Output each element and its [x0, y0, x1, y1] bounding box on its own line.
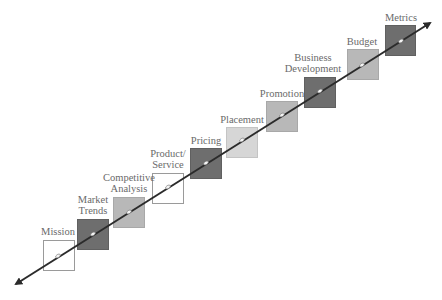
- step-label-promotion: Promotion: [260, 88, 304, 99]
- step-label-metrics: Metrics: [385, 12, 417, 23]
- step-label-placement: Placement: [220, 114, 264, 125]
- step-label-product-service: Product/ Service: [150, 148, 186, 170]
- marketing-plan-staircase-diagram: Mission Market Trends Competitive Analys…: [0, 0, 442, 300]
- step-label-pricing: Pricing: [191, 135, 221, 146]
- step-label-competitive-analysis: Competitive Analysis: [103, 172, 155, 194]
- step-label-business-development: Business Development: [285, 52, 342, 74]
- step-label-mission: Mission: [41, 226, 75, 237]
- step-label-budget: Budget: [347, 36, 377, 47]
- step-label-market-trends: Market Trends: [78, 194, 108, 216]
